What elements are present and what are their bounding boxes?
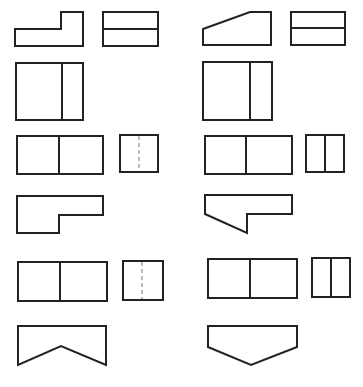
right-set-1	[203, 12, 345, 120]
orthographic-drawing-canvas	[0, 0, 363, 387]
left-set-1	[15, 12, 158, 120]
right-1-top-rect	[203, 62, 272, 120]
left-3-top-notched-shape	[18, 326, 106, 365]
left-3-side-rect	[123, 261, 163, 300]
left-set-2	[17, 135, 158, 233]
left-2-top-stepped-shape	[17, 196, 103, 233]
left-1-front-l-shape	[15, 12, 83, 46]
left-1-top-view	[16, 63, 83, 120]
right-2-front-rect	[205, 136, 292, 174]
right-3-side-view	[312, 258, 350, 297]
left-1-top-rect	[16, 63, 83, 120]
left-3-front-view	[18, 262, 107, 301]
left-3-front-rect	[18, 262, 107, 301]
left-1-side-view	[103, 12, 158, 46]
left-2-front-view	[17, 136, 103, 174]
left-3-side-view	[123, 261, 163, 300]
right-2-front-view	[205, 136, 292, 174]
left-set-3	[18, 261, 163, 365]
right-set-3	[208, 258, 350, 365]
right-2-side-view	[306, 135, 344, 172]
right-3-front-rect	[208, 259, 297, 298]
right-2-top-sloped-stepped-shape	[205, 195, 292, 233]
right-3-front-view	[208, 259, 297, 298]
right-1-top-view	[203, 62, 272, 120]
right-3-top-pentagon-shape	[208, 326, 297, 365]
right-1-side-view	[291, 12, 345, 45]
right-1-front-sloped-shape	[203, 12, 271, 45]
left-2-side-view	[120, 135, 158, 172]
right-set-2	[205, 135, 344, 233]
